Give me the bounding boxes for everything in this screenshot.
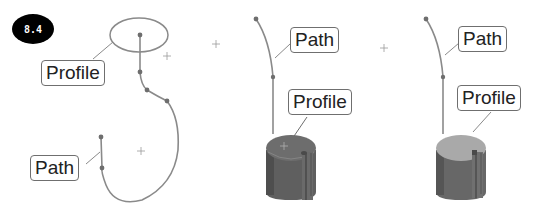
path-label: Path [30, 155, 79, 181]
swept-cylinder-result [436, 135, 486, 200]
profile-leader-line [93, 42, 113, 59]
profile-label: Profile [41, 60, 105, 86]
path-point [145, 88, 150, 93]
figure-number-badge: 8.4 [12, 14, 54, 44]
path-leader-line [275, 44, 290, 58]
path-point [138, 33, 143, 38]
path-point [424, 17, 429, 22]
path-point [99, 135, 104, 140]
origin-crosshair-icon [212, 40, 220, 48]
origin-crosshair-icon [380, 44, 388, 52]
path-point [165, 99, 170, 104]
path-point [441, 75, 445, 79]
sweep-path-curve [256, 19, 273, 134]
path-point [100, 166, 105, 171]
profile-label: Profile [457, 85, 521, 111]
profile-leader-line [473, 112, 491, 132]
path-label: Path [290, 27, 339, 53]
path-point [271, 75, 275, 79]
sweep-path-curve [101, 35, 178, 202]
path-leader-line [445, 43, 459, 55]
panel-1-sketch [86, 18, 178, 202]
origin-crosshair-icon [137, 147, 145, 155]
sweep-path-curve [426, 19, 443, 134]
swept-cylinder-preview [266, 135, 316, 200]
path-leader-line [86, 152, 100, 164]
path-point [254, 17, 259, 22]
path-label: Path [458, 26, 507, 52]
origin-crosshair-icon [163, 52, 171, 60]
figure-canvas: 8.4 Profile Path Path Profile Path Profi… [0, 0, 543, 215]
path-point [138, 70, 143, 75]
profile-label: Profile [288, 89, 352, 115]
